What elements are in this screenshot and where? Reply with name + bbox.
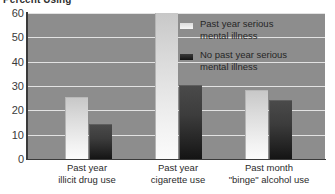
x-axis: [26, 159, 326, 161]
y-tick-10: 10: [2, 130, 24, 141]
bar-group2-series1: [155, 13, 178, 159]
category-label-3-line1: Past month: [245, 162, 293, 173]
bar-group3-series2: [269, 100, 292, 159]
bar-group1-series1: [65, 97, 88, 159]
bar-group1-series2: [89, 124, 112, 159]
legend-item-series1: Past year serious mental illness: [180, 18, 330, 42]
category-label-1-line2: illicit drug use: [35, 174, 139, 186]
chart-legend: Past year serious mental illness No past…: [180, 18, 330, 80]
legend-item-series2: No past year serious mental illness: [180, 49, 330, 73]
bar-chart: Percent Using 60 50 40 30 20 10 0 Past y…: [0, 0, 335, 194]
x-axis-category-labels: Past year illicit drug use Past year cig…: [27, 162, 325, 194]
y-tick-60: 60: [2, 8, 24, 19]
y-tick-30: 30: [2, 81, 24, 92]
category-label-2-line1: Past year: [158, 162, 198, 173]
y-axis: [26, 12, 28, 160]
legend-swatch-icon-series2: [180, 54, 193, 60]
legend-label-series1-line1: Past year serious: [200, 18, 330, 30]
category-label-1-line1: Past year: [67, 162, 107, 173]
legend-label-series1-line2: mental illness: [200, 30, 330, 42]
legend-label-series2-line1: No past year serious: [200, 49, 330, 61]
legend-label-series2-line2: mental illness: [200, 61, 330, 73]
y-tick-0: 0: [2, 154, 24, 165]
bar-group3-series1: [245, 90, 268, 159]
y-tick-50: 50: [2, 32, 24, 43]
y-axis-tick-labels: 60 50 40 30 20 10 0: [0, 0, 24, 194]
y-tick-40: 40: [2, 57, 24, 68]
y-tick-20: 20: [2, 105, 24, 116]
category-label-3-line2: "binge" alcohol use: [213, 174, 325, 186]
bar-group2-series2: [179, 85, 202, 159]
legend-swatch-icon-series1: [180, 23, 193, 29]
category-label-1: Past year illicit drug use: [35, 162, 139, 185]
category-label-3: Past month "binge" alcohol use: [213, 162, 325, 185]
